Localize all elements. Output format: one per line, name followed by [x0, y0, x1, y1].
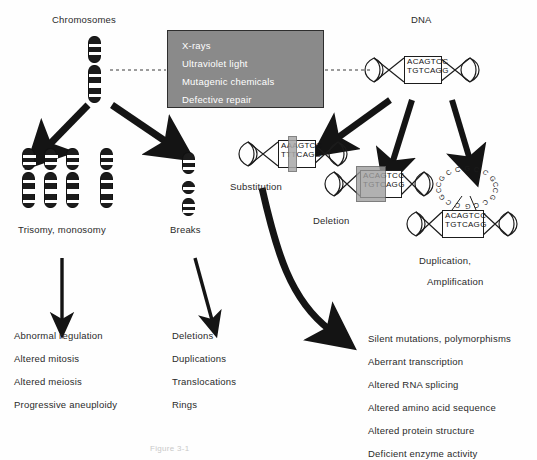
repeat-letter: G: [438, 174, 447, 182]
sequence-substitution-bottom: TTTCAGG: [281, 151, 313, 160]
mutagen-item-uv: Ultraviolet light: [182, 58, 248, 69]
label-substitution: Substitution: [230, 181, 282, 192]
repeat-letter: C: [435, 181, 443, 187]
label-dna: DNA: [411, 14, 432, 25]
mutagen-item-xrays: X-rays: [182, 40, 211, 51]
label-amplification: Amplification: [427, 276, 483, 287]
mutagen-item-repair: Defective repair: [182, 94, 252, 105]
label-breaks: Breaks: [170, 224, 201, 235]
repeat-letter: G: [465, 165, 470, 172]
label-chromosomes: Chromosomes: [52, 14, 116, 25]
outcome-break-item: Rings: [172, 399, 236, 410]
label-deletion: Deletion: [313, 215, 349, 226]
substitution-highlight: [288, 136, 297, 172]
sequence-duplication-bottom: TGTCAGG: [445, 221, 481, 230]
mutagen-box: X-rays Ultraviolet light Mutagenic chemi…: [167, 30, 324, 108]
outcome-molecular-item: Altered RNA splicing: [368, 379, 511, 390]
repeat-letter: C: [481, 198, 489, 207]
arrow-chromosome-to-breaks: [112, 105, 168, 143]
outcome-chromosomal-item: Progressive aneuploidy: [14, 399, 117, 410]
outcome-chromosomal-item: Altered meiosis: [14, 376, 117, 387]
outcomes-breaks: Deletions Duplications Translocations Ri…: [172, 330, 236, 422]
figure-caption: Figure 3-1: [150, 444, 189, 453]
repeat-letter: C: [454, 165, 461, 173]
repeat-letter: C: [473, 201, 480, 209]
arrow-breaks-to-outcomes: [195, 258, 212, 320]
repeat-letter: C: [435, 188, 443, 194]
repeat-letter: G: [438, 193, 447, 201]
outcome-molecular-item: Altered amino acid sequence: [368, 402, 511, 413]
outcome-molecular-item: Aberrant transcription: [368, 356, 511, 367]
repeat-letter: G: [488, 193, 497, 201]
repeat-letter: C: [492, 181, 500, 187]
arrow-dna-lesions-to-outcomes: [262, 188, 330, 330]
arrow-dna-to-duplication: [452, 100, 470, 160]
repeat-letter: G: [465, 203, 470, 210]
repeat-letter: C: [481, 169, 489, 178]
outcome-molecular-item: Silent mutations, polymorphisms: [368, 333, 511, 344]
diagram-canvas: Chromosomes DNA X-rays Ultraviolet light…: [0, 0, 537, 460]
outcome-break-item: Duplications: [172, 353, 236, 364]
outcome-chromosomal-item: Abnormal regulation: [14, 330, 117, 341]
outcome-break-item: Deletions: [172, 330, 236, 341]
repeat-letter: C: [492, 188, 500, 194]
outcome-molecular-item: Altered protein structure: [368, 425, 511, 436]
outcome-molecular-item: Deficient enzyme activity: [368, 448, 511, 459]
sequence-substitution: AAAGTCC TTTCAGG: [278, 140, 316, 168]
arrow-chromosome-to-aneuploidy: [48, 105, 88, 146]
sequence-wildtype: ACAGTCC TGTCAGG: [404, 56, 442, 84]
label-duplication: Duplication,: [419, 255, 471, 266]
repeat-letter: C: [444, 169, 452, 178]
deletion-highlight: [356, 166, 386, 202]
outcome-chromosomal-item: Altered mitosis: [14, 353, 117, 364]
sequence-wildtype-bottom: TGTCAGG: [407, 67, 439, 76]
mutagen-item-chemicals: Mutagenic chemicals: [182, 76, 275, 87]
outcomes-chromosomal: Abnormal regulation Altered mitosis Alte…: [14, 330, 117, 422]
sequence-duplication: ACAGTCC TGTCAGG: [442, 210, 484, 238]
repeat-letter: C: [473, 165, 480, 173]
outcomes-molecular: Silent mutations, polymorphisms Aberrant…: [368, 333, 511, 460]
label-trisomy-monosomy: Trisomy, monosomy: [18, 224, 106, 235]
repeat-letter: C: [444, 198, 452, 207]
arrow-dna-to-deletion: [392, 100, 412, 164]
outcome-break-item: Translocations: [172, 376, 236, 387]
amplified-repeat-circle: GCCGCCGCCGCCGCCGCC: [434, 166, 500, 210]
repeat-letter: C: [454, 201, 461, 209]
arrow-dna-to-substitution: [336, 100, 390, 139]
